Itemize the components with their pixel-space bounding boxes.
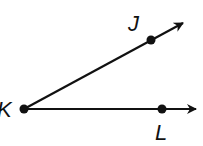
angle-diagram: K J L (0, 0, 203, 146)
point-l (158, 105, 167, 114)
point-k (20, 105, 29, 114)
label-k: K (0, 97, 13, 122)
label-j: J (127, 11, 140, 36)
label-l: L (155, 120, 167, 145)
ray-kj (24, 23, 183, 109)
point-j (147, 36, 156, 45)
